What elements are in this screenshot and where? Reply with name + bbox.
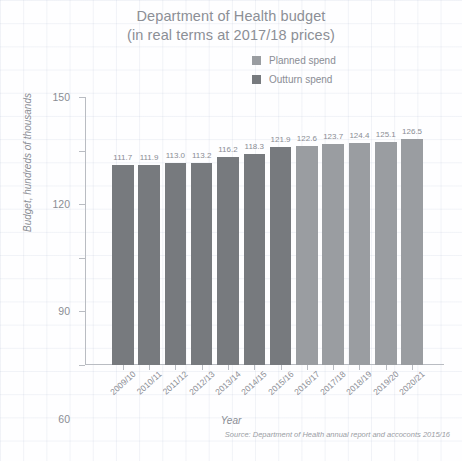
- chart-title-block: Department of Health budget (in real ter…: [0, 7, 462, 45]
- x-tick-mark: [228, 365, 229, 370]
- bar: 124.4: [349, 143, 371, 365]
- bar-value-label: 113.2: [192, 151, 211, 160]
- legend-swatch-outturn: [252, 75, 261, 84]
- x-category-label: 2010/11: [135, 369, 164, 397]
- y-tick-label: 150: [52, 91, 70, 103]
- bar-value-label: 111.9: [140, 153, 159, 162]
- x-tick-mark: [333, 365, 334, 370]
- bar: 125.1: [375, 142, 397, 366]
- x-tick-mark: [307, 365, 308, 370]
- x-tick-mark: [386, 365, 387, 370]
- x-category-label: 2018/19: [345, 369, 375, 397]
- y-tick-mark: 0: [79, 365, 85, 366]
- bar: 111.9: [138, 165, 160, 365]
- x-category-label: 2020/21: [397, 369, 427, 397]
- x-category-label: 2016/17: [292, 369, 322, 397]
- legend-label-planned: Planned spend: [269, 55, 336, 66]
- chart-legend: Planned spend Outturn spend: [252, 55, 336, 85]
- bar-value-label: 122.6: [297, 134, 317, 143]
- bar: 111.7: [112, 165, 134, 365]
- x-tick-mark: [202, 365, 203, 370]
- bar-value-label: 124.4: [349, 131, 369, 140]
- bar-value-label: 125.1: [376, 130, 396, 139]
- x-tick-mark: [412, 365, 413, 370]
- source-note: Source: Department of Health annual repo…: [225, 430, 450, 439]
- bar-value-label: 121.9: [271, 135, 291, 144]
- x-category-label: 2019/20: [371, 369, 401, 397]
- bar: 118.3: [244, 154, 266, 365]
- x-category-label: 2012/13: [187, 369, 217, 397]
- x-category-label: 2014/15: [239, 369, 269, 397]
- bar: 122.6: [296, 146, 318, 365]
- bar: 116.2: [217, 157, 239, 365]
- y-tick-label: 120: [52, 198, 70, 210]
- x-category-label: 2011/12: [161, 369, 190, 397]
- legend-item-planned: Planned spend: [252, 55, 336, 66]
- bar-value-label: 113.0: [166, 151, 185, 160]
- chart-canvas: Department of Health budget (in real ter…: [0, 0, 462, 461]
- legend-item-outturn: Outturn spend: [252, 74, 336, 85]
- x-category-label: 2009/10: [108, 369, 138, 397]
- bar-value-label: 118.3: [245, 142, 264, 151]
- chart-title: Department of Health budget: [137, 8, 326, 24]
- x-tick-mark: [175, 365, 176, 370]
- bar: 121.9: [270, 147, 292, 365]
- bar-value-label: 126.5: [402, 127, 422, 136]
- bar-value-label: 123.7: [323, 132, 343, 141]
- x-category-label: 2013/14: [213, 369, 243, 397]
- chart-subtitle: (in real terms at 2017/18 prices): [0, 26, 462, 45]
- bar-value-label: 111.7: [113, 153, 132, 162]
- x-tick-mark: [149, 365, 150, 370]
- x-tick-mark: [359, 365, 360, 370]
- y-axis-title: Budget, hundreds of thousands: [22, 93, 33, 232]
- legend-swatch-planned: [252, 56, 261, 65]
- bar: 126.5: [401, 139, 423, 365]
- x-axis-title: Year: [0, 415, 462, 426]
- x-category-label: 2017/18: [318, 369, 348, 397]
- bar: 113.2: [191, 163, 213, 365]
- x-category-label: 2015/16: [266, 369, 296, 397]
- y-tick-label: 90: [58, 305, 70, 317]
- legend-label-outturn: Outturn spend: [269, 74, 332, 85]
- bar: 123.7: [322, 144, 344, 365]
- x-tick-mark: [281, 365, 282, 370]
- x-tick-mark: [254, 365, 255, 370]
- plot-area: 0306090120150 111.7111.9113.0113.2116.21…: [85, 97, 444, 365]
- bar-value-label: 116.2: [218, 145, 237, 154]
- x-tick-mark: [123, 365, 124, 370]
- bar-group: 111.7111.9113.0113.2116.2118.3121.9122.6…: [85, 97, 444, 365]
- bar: 113.0: [165, 163, 187, 365]
